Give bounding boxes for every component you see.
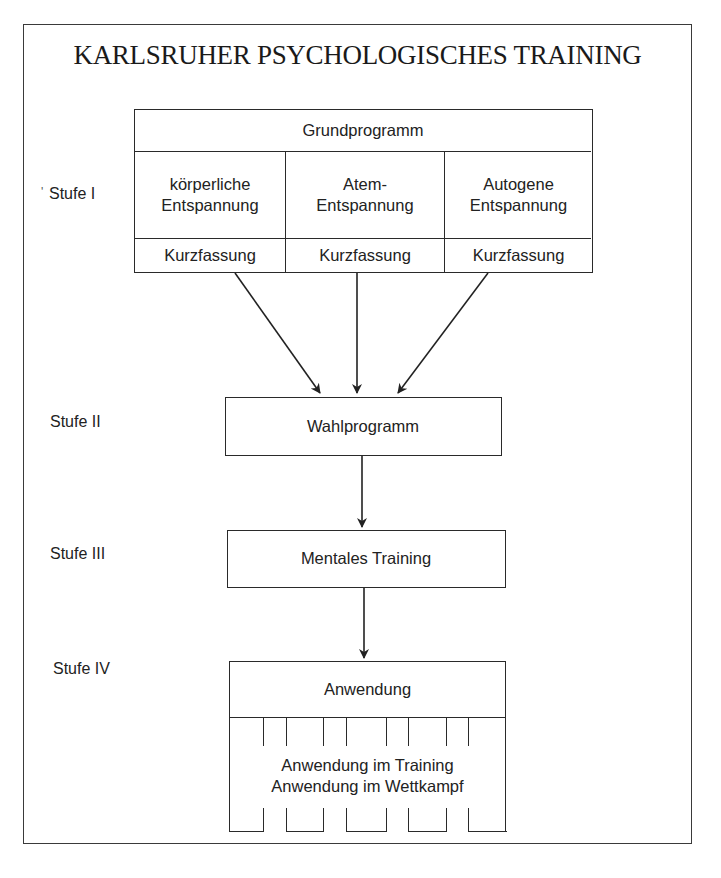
arrow-koerperliche-to-wahl bbox=[235, 273, 320, 393]
flow-arrows bbox=[0, 0, 721, 878]
arrow-autogene-to-wahl bbox=[398, 273, 488, 393]
